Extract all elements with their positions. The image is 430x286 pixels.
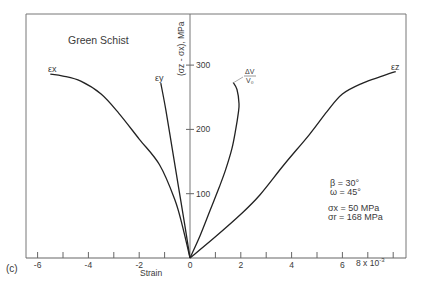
x-multiplier-label: 8 x 10-3 (356, 257, 385, 268)
chart-title: Green Schist (68, 34, 129, 46)
series-label-ez: εz (391, 62, 400, 72)
panel-label: (c) (6, 263, 18, 274)
x-tick-label: -4 (85, 260, 93, 270)
x-ticks (38, 252, 394, 258)
series-line (50, 74, 190, 258)
svg-text:ΔV: ΔV (245, 68, 255, 75)
stress-strain-chart: -6-4-20246 100200300 Green Schist (c) St… (0, 0, 430, 286)
series-label-dv: ΔV V₀ (233, 68, 256, 84)
annotation-sigma-r: σr = 168 MPa (328, 212, 383, 222)
y-tick-label: 300 (196, 60, 210, 70)
y-tick-label: 200 (196, 124, 210, 134)
svg-text:V₀: V₀ (246, 77, 254, 84)
x-tick-label: 2 (238, 260, 243, 270)
series-label-ex: εx (48, 64, 57, 74)
x-tick-labels: -6-4-20246 (34, 260, 345, 270)
x-tick-label: 4 (289, 260, 294, 270)
y-axis-label: (σz - σx), MPa (176, 21, 186, 76)
x-tick-label: 0 (188, 260, 193, 270)
y-tick-label: 100 (196, 189, 210, 199)
x-axis-label: Strain (140, 268, 162, 278)
annotation-omega: ω = 45° (330, 187, 361, 197)
series-line (190, 72, 396, 258)
x-tick-label: 6 (340, 260, 345, 270)
x-tick-label: -6 (34, 260, 42, 270)
series-line (190, 82, 239, 258)
data-series (50, 72, 395, 258)
series-line (161, 83, 190, 258)
series-label-ey: εy (155, 73, 164, 83)
